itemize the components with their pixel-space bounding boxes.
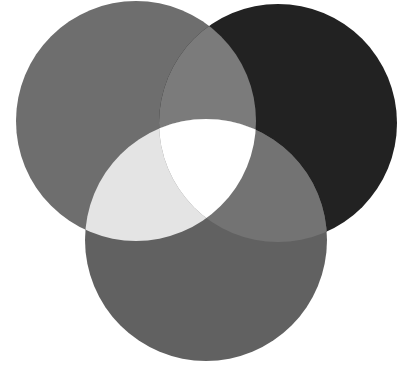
venn-diagram (0, 0, 407, 376)
